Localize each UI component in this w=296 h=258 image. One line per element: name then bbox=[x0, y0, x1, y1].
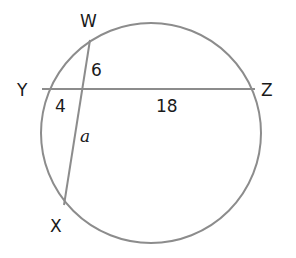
chord-wx bbox=[64, 40, 90, 205]
segment-label-6: 6 bbox=[91, 60, 102, 80]
circle-diagram: W Y Z X 6 4 18 a bbox=[0, 0, 296, 258]
point-label-x: X bbox=[50, 216, 62, 236]
circle bbox=[41, 23, 261, 243]
point-label-y: Y bbox=[16, 80, 28, 100]
segment-label-a: a bbox=[80, 126, 90, 146]
segment-label-4: 4 bbox=[55, 96, 66, 116]
point-label-z: Z bbox=[261, 80, 273, 100]
segment-label-18: 18 bbox=[156, 96, 178, 116]
point-label-w: W bbox=[80, 11, 97, 31]
